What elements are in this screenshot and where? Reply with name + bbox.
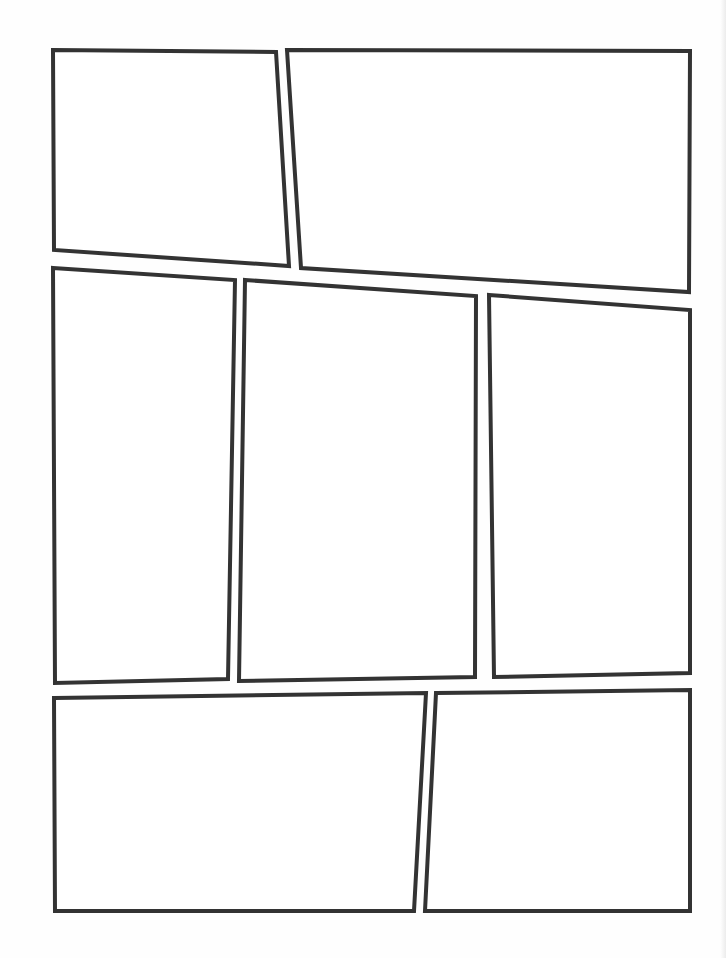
panel-4	[239, 280, 476, 681]
panel-2	[287, 50, 690, 292]
page-edge-shadow	[720, 0, 726, 958]
panel-7	[425, 690, 690, 911]
panel-5	[489, 295, 690, 677]
panel-3	[53, 268, 235, 683]
panel-6	[54, 693, 426, 911]
panel-1	[53, 50, 289, 266]
panel-layout	[0, 0, 726, 958]
comic-page	[0, 0, 726, 958]
